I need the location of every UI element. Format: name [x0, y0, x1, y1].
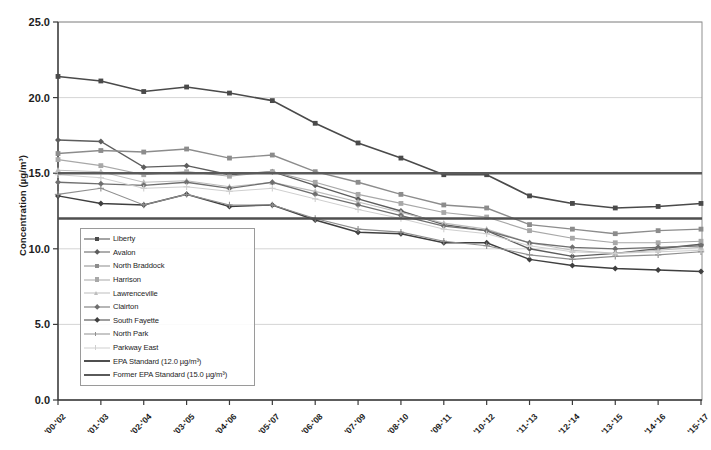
legend-swatch-icon: [84, 328, 110, 340]
data-point-marker: [183, 184, 189, 190]
legend-marker-square-icon: [95, 237, 99, 241]
legend-item[interactable]: Clairton: [84, 300, 252, 314]
marker-square: [313, 121, 318, 126]
marker-square: [270, 98, 275, 103]
data-point-marker: [613, 206, 618, 211]
data-point-marker: [570, 236, 575, 241]
data-point-marker: [570, 201, 575, 206]
data-point-marker: [313, 180, 318, 185]
marker-square: [356, 192, 361, 197]
marker-diamond: [698, 268, 704, 274]
data-point-marker: [141, 185, 147, 191]
marker-diamond: [55, 179, 61, 185]
legend-item-label: South Fayette: [113, 316, 159, 325]
data-point-marker: [569, 256, 575, 262]
marker-diamond: [655, 267, 661, 273]
marker-square: [184, 85, 189, 90]
legend-swatch-icon: [84, 274, 110, 286]
marker-square: [699, 227, 704, 232]
data-point-marker: [270, 98, 275, 103]
marker-square: [98, 163, 103, 168]
data-point-marker: [356, 180, 361, 185]
legend-item-label: Parkway East: [113, 343, 158, 352]
data-point-marker: [269, 202, 275, 208]
marker-diamond: [184, 163, 190, 169]
legend-item[interactable]: South Fayette: [84, 314, 252, 328]
marker-diamond: [98, 138, 104, 144]
legend-line: [84, 333, 110, 334]
marker-square: [613, 206, 618, 211]
marker-square: [399, 156, 404, 161]
data-point-marker: [141, 164, 147, 170]
marker-square: [56, 157, 61, 162]
legend-item[interactable]: North Park: [84, 327, 252, 341]
legend-swatch-icon: [84, 233, 110, 245]
data-point-marker: [56, 74, 61, 79]
legend-item-label: EPA Standard (12.0 µg/m³): [113, 357, 201, 366]
marker-square: [227, 156, 232, 161]
data-point-marker: [699, 201, 704, 206]
legend-marker-triangle-icon: [94, 291, 98, 295]
marker-square: [356, 180, 361, 185]
legend-swatch-icon: [84, 260, 110, 272]
legend-swatch-icon: [84, 355, 110, 367]
marker-square: [98, 148, 103, 153]
data-point-marker: [98, 79, 103, 84]
series-liberty: [56, 74, 704, 210]
legend-marker-plus-icon: [95, 332, 96, 336]
data-point-marker: [55, 137, 61, 143]
data-point-marker: [98, 138, 104, 144]
data-point-marker: [56, 151, 61, 156]
marker-square: [656, 228, 661, 233]
legend-item-label: North Braddock: [113, 261, 164, 270]
legend-swatch-icon: [84, 246, 110, 258]
legend-item-label: Avalon: [113, 248, 135, 257]
legend-item-label: North Park: [113, 329, 148, 338]
marker-diamond: [55, 137, 61, 143]
data-point-marker: [699, 227, 704, 232]
legend-item-label: Former EPA Standard (15.0 µg/m³): [113, 370, 227, 379]
legend-item[interactable]: Harrison: [84, 273, 252, 287]
marker-square: [356, 141, 361, 146]
marker-square: [227, 174, 232, 179]
data-point-marker: [183, 191, 189, 197]
marker-square: [270, 153, 275, 158]
legend-item[interactable]: Former EPA Standard (15.0 µg/m³): [84, 368, 252, 382]
data-point-marker: [656, 228, 661, 233]
legend-marker-diamond-icon: [94, 304, 100, 310]
marker-square: [313, 180, 318, 185]
series-line: [58, 149, 701, 234]
legend-swatch-icon: [84, 369, 110, 381]
legend-swatch-icon: [84, 301, 110, 313]
legend-item[interactable]: Liberty: [84, 232, 252, 246]
marker-square: [56, 74, 61, 79]
legend-item[interactable]: North Braddock: [84, 259, 252, 273]
legend-marker-diamond-icon: [94, 249, 100, 255]
legend-item[interactable]: EPA Standard (12.0 µg/m³): [84, 354, 252, 368]
marker-diamond: [569, 262, 575, 268]
data-point-marker: [141, 150, 146, 155]
data-point-marker: [656, 204, 661, 209]
marker-square: [484, 206, 489, 211]
data-point-marker: [355, 206, 361, 212]
legend-item[interactable]: Lawrenceville: [84, 286, 252, 300]
data-point-marker: [484, 206, 489, 211]
data-point-marker: [184, 147, 189, 152]
data-point-marker: [441, 210, 446, 215]
marker-square: [527, 228, 532, 233]
data-point-marker: [698, 247, 704, 253]
marker-square: [527, 193, 532, 198]
data-point-marker: [98, 163, 103, 168]
legend-item[interactable]: Parkway East: [84, 341, 252, 355]
legend-item[interactable]: Avalon: [84, 246, 252, 260]
data-point-marker: [441, 203, 446, 208]
data-point-marker: [527, 193, 532, 198]
data-point-marker: [98, 148, 103, 153]
data-point-marker: [141, 202, 147, 208]
data-point-marker: [98, 175, 104, 181]
data-point-marker: [227, 174, 232, 179]
marker-square: [699, 201, 704, 206]
data-point-marker: [356, 141, 361, 146]
legend-marker-plus-icon: [95, 345, 96, 349]
